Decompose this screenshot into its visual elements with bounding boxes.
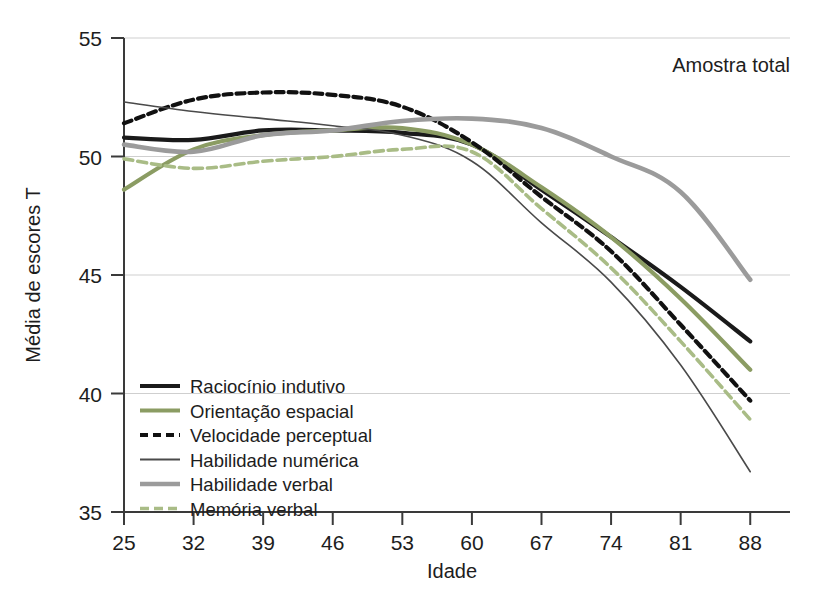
x-tick-label: 67	[530, 531, 553, 554]
x-tick-label: 53	[391, 531, 414, 554]
x-tick-labels: 25323946536067748188	[112, 531, 762, 554]
series-line-1	[124, 130, 750, 342]
legend: Raciocínio indutivoOrientação espacialVe…	[140, 376, 372, 520]
legend-label-6: Memória verbal	[190, 499, 318, 520]
y-tick-label: 55	[79, 27, 102, 50]
x-tick-label: 74	[599, 531, 623, 554]
y-tick-label: 45	[79, 264, 102, 287]
y-tick-label: 40	[79, 383, 102, 406]
chart-container: 3540455055 25323946536067748188 Média de…	[0, 0, 828, 602]
y-tick-label: 50	[79, 146, 102, 169]
x-tick-label: 32	[182, 531, 205, 554]
x-tick-label: 46	[321, 531, 344, 554]
legend-label-5: Habilidade verbal	[190, 474, 333, 495]
x-tick-label: 25	[112, 531, 135, 554]
y-tick-label: 35	[79, 501, 102, 524]
x-axis-title: Idade	[427, 560, 477, 582]
sample-annotation: Amostra total	[672, 54, 790, 76]
x-tick-label: 81	[669, 531, 692, 554]
y-axis-title: Média de escores T	[22, 187, 44, 362]
x-tick-label: 39	[251, 531, 274, 554]
legend-label-2: Orientação espacial	[190, 401, 354, 422]
legend-label-3: Velocidade perceptual	[190, 425, 372, 446]
legend-label-4: Habilidade numérica	[190, 450, 359, 471]
x-tick-label: 60	[460, 531, 483, 554]
line-chart: 3540455055 25323946536067748188 Média de…	[0, 0, 828, 602]
y-tick-labels: 3540455055	[79, 27, 102, 524]
y-axis	[111, 38, 124, 512]
x-tick-label: 88	[739, 531, 762, 554]
legend-label-1: Raciocínio indutivo	[190, 376, 345, 397]
